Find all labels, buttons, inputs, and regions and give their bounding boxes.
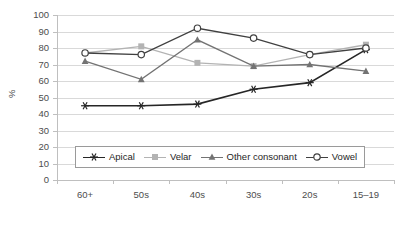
data-point-circle-open xyxy=(314,154,320,160)
legend-key-square-icon xyxy=(144,152,166,162)
series-line xyxy=(85,50,366,106)
legend-item-other-consonant[interactable]: Other consonant xyxy=(201,152,297,162)
data-point-asterisk xyxy=(137,102,145,109)
legend: ApicalVelarOther consonantVowel xyxy=(75,146,365,168)
line-chart: % 0102030405060708090100 60+50s40s30s20s… xyxy=(0,0,406,225)
legend-marker xyxy=(83,152,105,162)
legend-label: Vowel xyxy=(332,152,357,162)
legend-label: Other consonant xyxy=(227,152,297,162)
series-line xyxy=(85,45,366,66)
data-point-asterisk xyxy=(250,86,258,93)
data-point-triangle xyxy=(82,58,89,64)
data-point-asterisk xyxy=(81,102,89,109)
series-velar xyxy=(82,42,369,69)
series-line xyxy=(85,40,366,80)
data-point-circle-open xyxy=(307,51,313,57)
legend-item-apical[interactable]: Apical xyxy=(83,152,135,162)
legend-label: Apical xyxy=(109,152,135,162)
legend-key-triangle-icon xyxy=(201,152,223,162)
data-point-circle-open xyxy=(363,45,369,51)
legend-label: Velar xyxy=(170,152,192,162)
data-point-square xyxy=(194,60,200,66)
legend-key-asterisk-icon xyxy=(83,152,105,162)
legend-marker xyxy=(201,152,223,162)
data-point-circle-open xyxy=(138,51,144,57)
data-point-circle-open xyxy=(194,25,200,31)
series-line xyxy=(85,28,366,54)
legend-marker xyxy=(306,152,328,162)
series-other-consonant xyxy=(82,36,370,82)
data-point-circle-open xyxy=(250,35,256,41)
legend-key-circle-open-icon xyxy=(306,152,328,162)
series-apical xyxy=(81,46,370,109)
data-point-square xyxy=(138,43,144,49)
data-point-circle-open xyxy=(82,50,88,56)
series-layer xyxy=(0,0,406,225)
data-point-asterisk xyxy=(193,101,201,108)
legend-item-velar[interactable]: Velar xyxy=(144,152,192,162)
legend-marker xyxy=(144,152,166,162)
data-point-asterisk xyxy=(90,154,98,161)
data-point-triangle xyxy=(194,36,201,42)
legend-item-vowel[interactable]: Vowel xyxy=(306,152,357,162)
data-point-square xyxy=(152,154,158,160)
data-point-triangle xyxy=(208,153,215,159)
